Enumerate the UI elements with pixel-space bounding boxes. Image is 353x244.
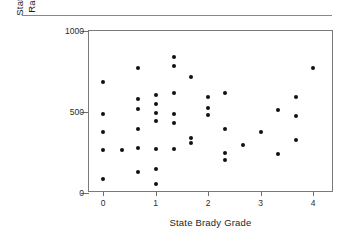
data-point — [101, 177, 105, 181]
data-point — [311, 66, 315, 70]
data-point — [120, 148, 124, 152]
x-axis-tick-label: 1 — [153, 198, 158, 208]
x-axis-tick — [103, 191, 104, 196]
data-point — [136, 127, 140, 131]
data-point — [136, 107, 140, 111]
x-axis-tick — [313, 191, 314, 196]
data-point — [223, 127, 227, 131]
y-axis-title: State Violent Crime Rate, per 100,000 — [14, 0, 38, 54]
y-axis-title-line1: State Violent Crime — [14, 0, 26, 16]
x-axis-tick-label: 4 — [311, 198, 316, 208]
data-point — [276, 152, 280, 156]
data-point — [172, 121, 176, 125]
data-point — [101, 80, 105, 84]
data-point — [136, 66, 140, 70]
data-point — [101, 130, 105, 134]
x-axis-tick — [156, 191, 157, 196]
data-point — [294, 114, 298, 118]
data-point — [223, 158, 227, 162]
data-point — [189, 141, 193, 145]
data-point — [136, 97, 140, 101]
data-point — [101, 148, 105, 152]
data-point — [223, 91, 227, 95]
x-axis-tick-label: 2 — [206, 198, 211, 208]
data-point — [172, 91, 176, 95]
data-point — [154, 182, 158, 186]
data-point — [294, 138, 298, 142]
data-point — [154, 111, 158, 115]
data-point — [154, 147, 158, 151]
data-point — [172, 55, 176, 59]
data-point — [223, 151, 227, 155]
data-point — [172, 64, 176, 68]
data-point — [172, 147, 176, 151]
data-point — [259, 130, 263, 134]
data-point — [276, 108, 280, 112]
data-point — [241, 143, 245, 147]
data-point — [136, 170, 140, 174]
data-point — [154, 167, 158, 171]
data-point — [154, 93, 158, 97]
y-axis-tick-label: 1000 — [65, 26, 84, 36]
data-point — [136, 146, 140, 150]
data-point — [172, 112, 176, 116]
plot-area: 0500100001234 — [88, 30, 333, 192]
y-axis-tick-label: 500 — [70, 107, 84, 117]
header-divider — [22, 15, 332, 16]
x-axis-tick-label: 3 — [258, 198, 263, 208]
x-axis-title: State Brady Grade — [88, 217, 333, 228]
x-axis-tick-label: 0 — [101, 198, 106, 208]
data-point — [154, 119, 158, 123]
data-point — [206, 113, 210, 117]
data-point — [154, 102, 158, 106]
data-point — [206, 95, 210, 99]
scatter-plot-figure: 0500100001234 State Brady Grade State Vi… — [0, 0, 353, 244]
data-point — [189, 136, 193, 140]
data-point — [206, 106, 210, 110]
data-point — [101, 112, 105, 116]
y-axis-title-line2: Rate, per 100,000 — [26, 0, 38, 16]
x-axis-tick — [261, 191, 262, 196]
data-point — [189, 75, 193, 79]
x-axis-tick — [208, 191, 209, 196]
y-axis-tick-label: 0 — [79, 188, 84, 198]
data-point — [294, 95, 298, 99]
